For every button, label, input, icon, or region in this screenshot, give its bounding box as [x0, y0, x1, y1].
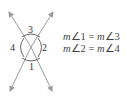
measure-symbol: m [63, 43, 71, 54]
angle-label-1: 1 [29, 61, 34, 72]
angle-label-4: 4 [10, 42, 15, 53]
line-a-lower [31, 47, 52, 91]
angle-2-arc [38, 38, 42, 57]
equation-angle2-equals-angle4: m∠2 = m∠4 [63, 42, 120, 54]
intersecting-lines-diagram: 3 4 2 1 [0, 0, 64, 97]
equation-angle1-equals-angle3: m∠1 = m∠3 [63, 30, 120, 42]
measure-symbol: m [97, 31, 105, 42]
angle-label-2: 2 [42, 42, 47, 53]
angle-4-arc [21, 38, 25, 57]
measure-symbol: m [63, 31, 71, 42]
angle-label-3: 3 [28, 24, 33, 35]
line-b-lower [10, 47, 31, 91]
measure-symbol: m [97, 43, 105, 54]
